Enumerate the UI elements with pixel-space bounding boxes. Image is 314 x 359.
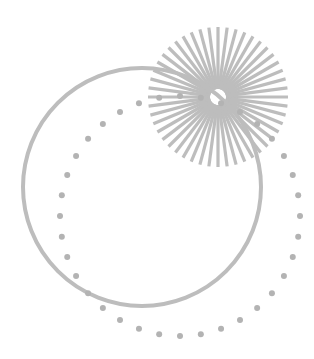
dot bbox=[295, 234, 301, 240]
dot bbox=[281, 273, 287, 279]
dot bbox=[100, 121, 106, 127]
dot bbox=[254, 121, 260, 127]
dot bbox=[85, 136, 91, 142]
dot bbox=[269, 136, 275, 142]
dot bbox=[297, 213, 303, 219]
dot bbox=[177, 333, 183, 339]
dot bbox=[218, 326, 224, 332]
dot bbox=[237, 317, 243, 323]
dot bbox=[64, 172, 70, 178]
dot bbox=[64, 254, 70, 260]
dot bbox=[136, 326, 142, 332]
dot bbox=[100, 305, 106, 311]
dot bbox=[59, 234, 65, 240]
dot bbox=[117, 109, 123, 115]
dot bbox=[177, 93, 183, 99]
dot bbox=[237, 109, 243, 115]
dot bbox=[85, 290, 91, 296]
dot bbox=[117, 317, 123, 323]
dot bbox=[290, 254, 296, 260]
dot bbox=[295, 192, 301, 198]
dot bbox=[218, 100, 224, 106]
dot bbox=[198, 331, 204, 337]
abstract-composition bbox=[0, 0, 314, 359]
dot bbox=[57, 213, 63, 219]
dot bbox=[73, 273, 79, 279]
dot bbox=[281, 153, 287, 159]
dot bbox=[136, 100, 142, 106]
dotted-circle bbox=[57, 93, 303, 339]
dot bbox=[59, 192, 65, 198]
dot bbox=[290, 172, 296, 178]
solid-circle bbox=[23, 68, 261, 306]
dot bbox=[156, 331, 162, 337]
dot bbox=[156, 95, 162, 101]
dot bbox=[269, 290, 275, 296]
dot bbox=[73, 153, 79, 159]
dot bbox=[198, 95, 204, 101]
dot bbox=[254, 305, 260, 311]
